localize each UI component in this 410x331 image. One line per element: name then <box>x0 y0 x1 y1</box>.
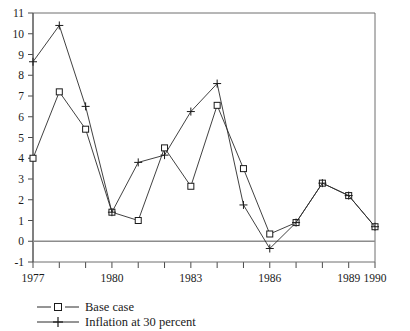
x-tick-label: 1983 <box>179 272 202 284</box>
data-point-square <box>214 102 220 108</box>
data-point-square <box>56 89 62 95</box>
data-point-plus <box>55 21 63 29</box>
data-point-square <box>162 145 168 151</box>
plot-frame <box>33 13 375 262</box>
data-point-plus <box>82 102 90 110</box>
x-tick-label: 1989 <box>337 272 360 284</box>
line-chart-plot: -101234567891011 19771980198319861989199… <box>0 0 410 331</box>
y-tick-label: 8 <box>18 69 24 81</box>
data-point-square <box>188 183 194 189</box>
legend-label-base-case: Base case <box>85 300 134 314</box>
chart-legend: Base case Inflation at 30 percent <box>36 299 196 329</box>
series-base-case <box>30 89 378 237</box>
chart-container: -101234567891011 19771980198319861989199… <box>0 0 410 331</box>
data-point-plus <box>29 58 37 66</box>
data-point-square <box>30 155 36 161</box>
x-tick-label: 1980 <box>100 272 123 284</box>
series-inflation-30-percent <box>29 21 379 252</box>
y-tick-label: 6 <box>18 111 24 123</box>
legend-item-base-case: Base case <box>36 299 196 314</box>
legend-label-inflation: Inflation at 30 percent <box>85 315 196 329</box>
x-tick-label: 1990 <box>364 272 387 284</box>
y-tick-label: 3 <box>18 173 24 185</box>
y-tick-label: 4 <box>18 152 24 164</box>
data-point-square <box>267 231 273 237</box>
data-point-square <box>83 126 89 132</box>
axis-tick-marks <box>28 13 375 268</box>
y-tick-label: 1 <box>18 215 24 227</box>
square-marker-icon <box>36 300 80 314</box>
legend-item-inflation: Inflation at 30 percent <box>36 314 196 329</box>
y-tick-label: 0 <box>18 235 24 247</box>
x-axis-tick-labels: 197719801983198619891990 <box>22 272 387 284</box>
y-tick-label: 9 <box>18 49 24 61</box>
y-tick-label: 2 <box>18 194 24 206</box>
y-tick-label: -1 <box>14 256 24 268</box>
y-tick-label: 7 <box>18 90 24 102</box>
series-layer <box>29 21 379 252</box>
y-tick-label: 10 <box>13 28 25 40</box>
y-axis-tick-labels: -101234567891011 <box>13 7 25 268</box>
data-point-plus <box>239 201 247 209</box>
y-tick-label: 11 <box>13 7 24 19</box>
plus-marker-icon <box>36 315 80 329</box>
x-tick-label: 1977 <box>22 272 45 284</box>
data-point-square <box>240 166 246 172</box>
y-tick-label: 5 <box>18 132 24 144</box>
data-point-square <box>135 218 141 224</box>
x-tick-label: 1986 <box>258 272 281 284</box>
data-point-plus <box>134 158 142 166</box>
